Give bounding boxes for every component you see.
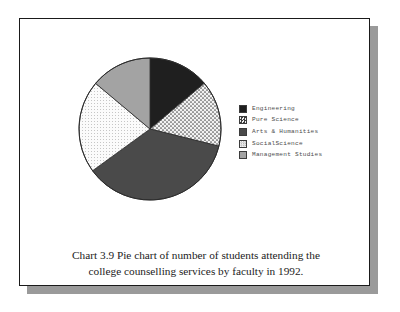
legend-item-pure-science[interactable]: Pure Science — [239, 115, 364, 127]
legend-item-management-studies[interactable]: Management Studies — [239, 149, 364, 161]
chart-legend: Engineering Pure Science Arts & Humaniti… — [239, 103, 364, 161]
caption-line-2: college counselling services by faculty … — [50, 263, 342, 279]
legend-swatch-engineering — [239, 105, 247, 113]
figure-card: Engineering Pure Science Arts & Humaniti… — [19, 18, 370, 286]
caption-line-1: Chart 3.9 Pie chart of number of student… — [50, 247, 342, 263]
pie-chart — [60, 39, 250, 229]
legend-item-engineering[interactable]: Engineering — [239, 103, 364, 115]
legend-swatch-management-studies — [239, 151, 247, 159]
legend-label-management-studies: Management Studies — [252, 152, 322, 158]
legend-item-social-science[interactable]: SocialScience — [239, 138, 364, 150]
legend-swatch-arts-humanities — [239, 128, 247, 136]
legend-label-engineering: Engineering — [252, 106, 295, 112]
pie-chart-svg — [60, 39, 250, 229]
figure-caption: Chart 3.9 Pie chart of number of student… — [50, 247, 342, 279]
pie-slice-group — [79, 58, 221, 200]
legend-item-arts-humanities[interactable]: Arts & Humanities — [239, 126, 364, 138]
legend-swatch-pure-science — [239, 116, 247, 124]
legend-label-social-science: SocialScience — [252, 141, 303, 147]
legend-label-pure-science: Pure Science — [252, 117, 299, 123]
legend-swatch-social-science — [239, 140, 247, 148]
legend-label-arts-humanities: Arts & Humanities — [252, 129, 318, 135]
